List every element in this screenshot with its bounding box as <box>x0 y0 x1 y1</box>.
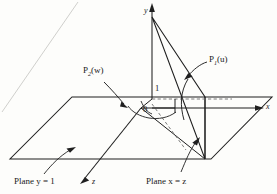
plane-y1-prefix: Plane <box>14 176 36 186</box>
origin-label: 0 <box>143 105 147 114</box>
plane-y1-leader-arrowhead <box>67 147 77 153</box>
p2-leader-curve <box>104 82 124 104</box>
p2-leader-arrowhead <box>120 102 128 108</box>
z-axis-label: z <box>92 178 95 186</box>
p2-argument: (w) <box>91 65 104 75</box>
p1-leader-arrowhead-upper <box>184 73 193 80</box>
plane-y1-leader-curve <box>44 150 70 174</box>
x-axis-label: x <box>266 103 270 111</box>
y-axis-label: y <box>144 7 148 15</box>
plane-y1-equation: = 1 <box>41 176 55 186</box>
plane-label-x-equals-z: Plane x = z <box>146 177 186 186</box>
scan-artifact-line <box>2 2 78 112</box>
point-label-p1: P1(u) <box>209 55 228 66</box>
plane-xz-equation: = z <box>173 176 187 186</box>
y-axis-arrowhead <box>149 3 155 12</box>
z-axis <box>85 108 141 178</box>
p1-argument: (u) <box>217 54 228 64</box>
tick-label-one: 1 <box>155 84 159 93</box>
z-axis-arrowhead <box>80 177 89 184</box>
horizontal-plane-shape <box>10 97 272 159</box>
point-label-p2: P2(w) <box>83 66 104 77</box>
dashed-origin-to-corner <box>152 104 186 150</box>
plane-xz-prefix: Plane <box>146 176 168 186</box>
p1-leader-curve-upper <box>188 62 207 76</box>
geometry-figure <box>0 0 277 194</box>
plane-label-y-equals-1: Plane y = 1 <box>14 177 55 186</box>
